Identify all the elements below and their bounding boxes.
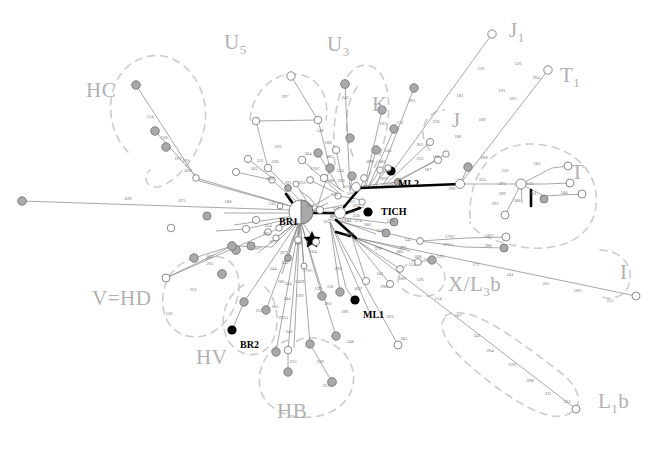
- mutation-label: 390: [485, 243, 493, 248]
- haplogroup-label-j: J: [452, 108, 461, 133]
- mutation-label: 294: [353, 203, 361, 208]
- mutation-label: 297: [282, 94, 290, 99]
- sample-label-ml2: ML2: [398, 178, 419, 189]
- mutation-label: 296: [449, 186, 457, 191]
- mutation-label: 241: [377, 271, 385, 276]
- mutation-label: 126: [347, 191, 355, 196]
- mutation-label: 293: [510, 96, 518, 101]
- mutation-label: 311: [257, 158, 264, 163]
- mutation-label: 266: [338, 178, 346, 183]
- mutation-label: 293: [387, 314, 395, 319]
- mutation-label: 176C: [310, 166, 320, 171]
- mutation-label: 265: [207, 261, 215, 266]
- mutation-label: 186: [278, 279, 286, 284]
- mutation-label: 304: [285, 281, 293, 286]
- mutation-label: 124: [409, 262, 417, 267]
- mutation-label: 145: [385, 148, 393, 153]
- mutation-label: 191: [183, 158, 191, 163]
- mutation-label: 292: [335, 266, 343, 271]
- mutation-label: 230: [269, 201, 277, 206]
- mutation-label: 261: [417, 142, 425, 147]
- mutation-label: 350: [353, 213, 361, 218]
- mutation-label: 264: [487, 348, 495, 353]
- mutation-label: 033: [324, 219, 332, 224]
- haplogroup-label-l1b: L1b: [598, 389, 629, 417]
- mutation-label: 176A: [443, 242, 454, 247]
- haplogroup-label-hc: HC: [86, 78, 116, 103]
- mutation-label: 189: [399, 276, 407, 281]
- mutation-label: 172: [473, 262, 481, 267]
- mutation-label: 261: [325, 301, 333, 306]
- mutation-label: 085: [397, 249, 405, 254]
- mutation-label: 189: [479, 117, 487, 122]
- node-tich: [363, 207, 372, 216]
- mutation-label: 342: [377, 228, 385, 233]
- haplogroup-label-j1: J1: [509, 18, 525, 46]
- mutation-label: 274: [355, 218, 363, 223]
- mutation-label: 283: [575, 288, 583, 293]
- mutation-label: 110: [327, 284, 334, 289]
- haplogroup-label-i: I: [620, 260, 628, 285]
- mutation-label: 164: [310, 249, 318, 254]
- mutation-label: 305: [401, 336, 409, 341]
- sample-label-tich: TICH: [381, 206, 407, 217]
- mutation-label: 098: [367, 159, 375, 164]
- mutation-label: 220: [272, 159, 280, 164]
- mutation-label: 297: [280, 250, 288, 255]
- mutation-label: 225: [417, 156, 425, 161]
- mutation-label: 126: [166, 311, 174, 316]
- mutation-label: 148: [317, 128, 325, 133]
- haplogroup-label-vhd: V=HD: [92, 286, 151, 311]
- mutation-label: 145: [405, 237, 413, 242]
- mutation-label: 241: [507, 272, 515, 277]
- outline-vhd: [163, 257, 239, 337]
- haplogroup-label-hv: HV: [196, 345, 227, 370]
- mutation-label: 126: [417, 277, 425, 282]
- mutation-label: 176: [387, 218, 395, 223]
- mutation-label: 241: [474, 333, 482, 338]
- sample-label-br2: BR2: [240, 339, 259, 350]
- mutation-label: 085: [379, 159, 387, 164]
- mutation-label: 255: [607, 298, 615, 303]
- mutation-label: 167: [175, 156, 183, 161]
- mutation-label: 129: [315, 286, 323, 291]
- mutation-label: 129: [437, 254, 445, 259]
- mutation-label: 073: [327, 211, 335, 216]
- mutation-label: 188: [325, 140, 333, 145]
- outline-j: [423, 110, 444, 150]
- mutation-label: 220: [433, 119, 441, 124]
- mutation-label: 246: [286, 329, 294, 334]
- mutation-label: 293: [492, 201, 500, 206]
- mutation-label: 069: [381, 176, 389, 181]
- mutation-label: 311: [545, 391, 552, 396]
- mutation-label: 156: [502, 168, 510, 173]
- mutation-label: 256: [299, 180, 307, 185]
- mutation-label: 265: [543, 281, 551, 286]
- mutation-label: 191: [499, 88, 507, 93]
- mutation-label: 248: [347, 339, 355, 344]
- mutation-label: 187: [425, 167, 433, 172]
- mutation-label: 354: [265, 223, 273, 228]
- mutation-label: 059: [355, 286, 363, 291]
- mutation-label: 311: [530, 191, 537, 196]
- mutation-label: 126: [515, 61, 523, 66]
- mutation-label: 296A: [278, 315, 289, 320]
- mutation-label: 186: [455, 134, 463, 139]
- mutation-label: 189: [481, 155, 489, 160]
- mutation-label: 228: [267, 176, 275, 181]
- sample-label-ml1: ML1: [363, 309, 384, 320]
- mutation-label: 163: [433, 154, 441, 159]
- mutation-label: 180: [328, 178, 336, 183]
- mutation-label: 188: [225, 199, 233, 204]
- mutation-label: 261: [409, 98, 417, 103]
- mutation-label: 128: [161, 135, 169, 140]
- mutation-label: 288: [514, 198, 522, 203]
- sample-label-br1: BR1: [279, 216, 298, 227]
- mutation-label: 185: [272, 304, 280, 309]
- mutation-label: 039: [125, 196, 133, 201]
- mutation-label: 228: [375, 246, 383, 251]
- mutation-label: 154: [147, 114, 155, 119]
- node-ml1: [350, 295, 359, 304]
- mutation-label: 105: [251, 166, 259, 171]
- mutation-label: 344: [270, 266, 278, 271]
